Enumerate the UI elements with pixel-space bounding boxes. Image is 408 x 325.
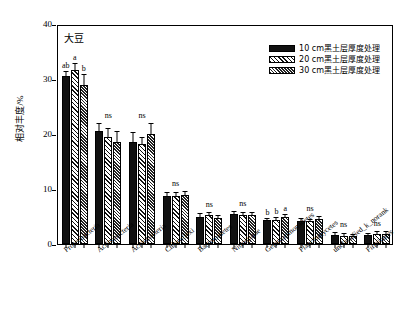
error-bar-cap bbox=[249, 212, 254, 213]
bar-item[interactable] bbox=[181, 24, 189, 244]
bar-item[interactable] bbox=[138, 24, 146, 244]
error-bar-cap bbox=[207, 212, 212, 213]
bar-group: abab bbox=[61, 24, 88, 244]
error-bar bbox=[209, 213, 210, 215]
bar-group: ns bbox=[330, 24, 357, 244]
bar-item[interactable] bbox=[239, 24, 247, 244]
error-bar-cap bbox=[231, 211, 236, 212]
error-bar bbox=[251, 213, 252, 215]
bar-group: ns bbox=[129, 24, 156, 244]
bar-item[interactable] bbox=[95, 24, 103, 244]
error-bar-cap bbox=[216, 215, 221, 216]
bar-item[interactable]: a bbox=[71, 24, 79, 244]
y-axis-tick-mark bbox=[52, 80, 56, 81]
bar-group: ns bbox=[162, 24, 189, 244]
bar[interactable] bbox=[71, 70, 79, 244]
error-bar-cap bbox=[283, 214, 288, 215]
error-bar-cap bbox=[265, 218, 270, 219]
bar-item[interactable] bbox=[196, 24, 204, 244]
bar-item[interactable] bbox=[248, 24, 256, 244]
bar-item[interactable] bbox=[104, 24, 112, 244]
significance-ns-label: ns bbox=[172, 180, 179, 188]
bar-item[interactable]: b bbox=[263, 24, 271, 244]
bar-group: ns bbox=[95, 24, 122, 244]
y-axis-tick-mark bbox=[52, 190, 56, 191]
error-bar bbox=[142, 138, 143, 144]
bar-item[interactable]: a bbox=[281, 24, 289, 244]
error-bar bbox=[83, 75, 84, 85]
x-axis-tick-labels: ProteobacteriaActinobacteriaAcidobacteri… bbox=[0, 245, 408, 325]
bar-item[interactable] bbox=[349, 24, 357, 244]
error-bar-cap bbox=[182, 191, 187, 192]
error-bar-cap bbox=[97, 123, 102, 124]
y-axis-tick-label: 20 bbox=[26, 130, 52, 139]
error-bar-cap bbox=[106, 128, 111, 129]
bar-item[interactable] bbox=[230, 24, 238, 244]
bar[interactable] bbox=[163, 196, 171, 244]
bar-item[interactable] bbox=[340, 24, 348, 244]
error-bar-cap bbox=[375, 231, 380, 232]
bar[interactable] bbox=[62, 76, 70, 244]
y-axis-tick-label: 10 bbox=[26, 185, 52, 194]
bar-item[interactable] bbox=[129, 24, 137, 244]
bar-item[interactable] bbox=[113, 24, 121, 244]
error-bar bbox=[267, 219, 268, 221]
significance-ns-label: ns bbox=[105, 112, 112, 120]
bar[interactable] bbox=[80, 85, 88, 244]
bar-item[interactable] bbox=[163, 24, 171, 244]
error-bar-cap bbox=[341, 233, 346, 234]
error-bar bbox=[276, 218, 277, 220]
significance-letter: b bbox=[274, 208, 278, 216]
error-bar-cap bbox=[131, 132, 136, 133]
significance-letter: b bbox=[265, 209, 269, 217]
error-bar bbox=[242, 213, 243, 215]
error-bar-cap bbox=[81, 74, 86, 75]
significance-letter: a bbox=[73, 54, 77, 62]
error-bar bbox=[184, 192, 185, 195]
bar-item[interactable]: ab bbox=[62, 24, 70, 244]
bar[interactable] bbox=[138, 144, 146, 244]
bar-item[interactable] bbox=[297, 24, 305, 244]
bar-item[interactable] bbox=[147, 24, 155, 244]
error-bar-cap bbox=[317, 216, 322, 217]
significance-letter: a bbox=[284, 205, 288, 213]
error-bar bbox=[166, 193, 167, 196]
error-bar bbox=[334, 233, 335, 235]
error-bar-cap bbox=[140, 137, 145, 138]
error-bar-cap bbox=[173, 192, 178, 193]
error-bar bbox=[151, 124, 152, 134]
significance-ns-label: ns bbox=[239, 200, 246, 208]
y-axis-tick-label: 40 bbox=[26, 20, 52, 29]
y-axis-tick-mark bbox=[52, 135, 56, 136]
bar-group: ns bbox=[229, 24, 256, 244]
bar[interactable] bbox=[104, 137, 112, 244]
error-bar bbox=[108, 129, 109, 137]
bar-item[interactable] bbox=[315, 24, 323, 244]
significance-letter: ab bbox=[62, 62, 70, 70]
error-bar bbox=[233, 212, 234, 215]
error-bar-cap bbox=[164, 192, 169, 193]
bar-item[interactable] bbox=[331, 24, 339, 244]
bar-item[interactable] bbox=[172, 24, 180, 244]
error-bar bbox=[74, 64, 75, 70]
bar-item[interactable] bbox=[214, 24, 222, 244]
bar-item[interactable] bbox=[205, 24, 213, 244]
error-bar-cap bbox=[115, 131, 120, 132]
plot-area: 大豆 10 cm黑土层厚度处理20 cm黑土层厚度处理30 cm黑土层厚度处理 … bbox=[57, 25, 393, 245]
error-bar-cap bbox=[149, 123, 154, 124]
bar-groups: ababnsnsnsnsnsbbansnsns bbox=[58, 26, 392, 244]
error-bar bbox=[65, 72, 66, 76]
error-bar bbox=[200, 214, 201, 217]
error-bar bbox=[133, 133, 134, 141]
y-axis-tick-label: 30 bbox=[26, 75, 52, 84]
y-axis-label: 相对丰度/% bbox=[13, 74, 26, 164]
significance-ns-label: ns bbox=[340, 221, 347, 229]
error-bar bbox=[368, 234, 369, 236]
bar-item[interactable]: b bbox=[272, 24, 280, 244]
bar-item[interactable]: b bbox=[80, 24, 88, 244]
significance-ns-label: ns bbox=[206, 201, 213, 209]
error-bar-cap bbox=[198, 213, 203, 214]
bar-group: bba bbox=[263, 24, 290, 244]
error-bar bbox=[218, 216, 219, 218]
bar-item[interactable] bbox=[364, 24, 372, 244]
